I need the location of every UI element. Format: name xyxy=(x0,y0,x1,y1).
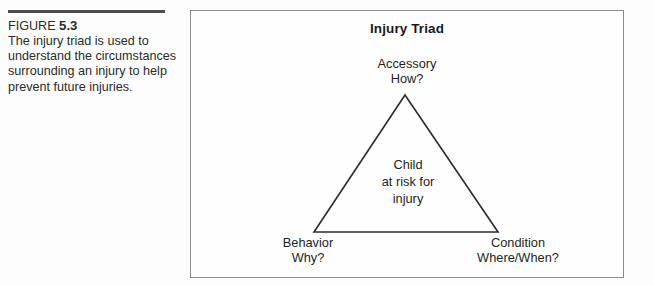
figure-label: FIGURE xyxy=(8,19,56,33)
caption-text: The injury triad is used to understand t… xyxy=(8,34,176,95)
center-line-1: Child xyxy=(328,156,488,173)
center-line-3: injury xyxy=(328,190,488,207)
figure-caption-block: FIGURE 5.3 The injury triad is used to u… xyxy=(8,10,180,95)
node-condition-question: Where/When? xyxy=(443,250,593,265)
figure-identifier: FIGURE 5.3 xyxy=(8,18,180,34)
node-label-behavior: Behavior Why? xyxy=(253,235,363,265)
diagram-frame: Injury Triad Accessory How? Child at ris… xyxy=(190,10,624,278)
center-line-2: at risk for xyxy=(328,173,488,190)
node-condition-term: Condition xyxy=(443,235,593,250)
node-behavior-term: Behavior xyxy=(253,235,363,250)
figure-number: 5.3 xyxy=(59,18,77,33)
node-accessory-term: Accessory xyxy=(191,56,623,71)
figure-page: FIGURE 5.3 The injury triad is used to u… xyxy=(0,0,654,285)
caption-rule-divider xyxy=(8,10,165,13)
node-label-center: Child at risk for injury xyxy=(328,156,488,207)
node-label-condition: Condition Where/When? xyxy=(443,235,593,265)
node-label-accessory: Accessory How? xyxy=(191,56,623,86)
node-behavior-question: Why? xyxy=(253,250,363,265)
node-accessory-question: How? xyxy=(191,71,623,86)
